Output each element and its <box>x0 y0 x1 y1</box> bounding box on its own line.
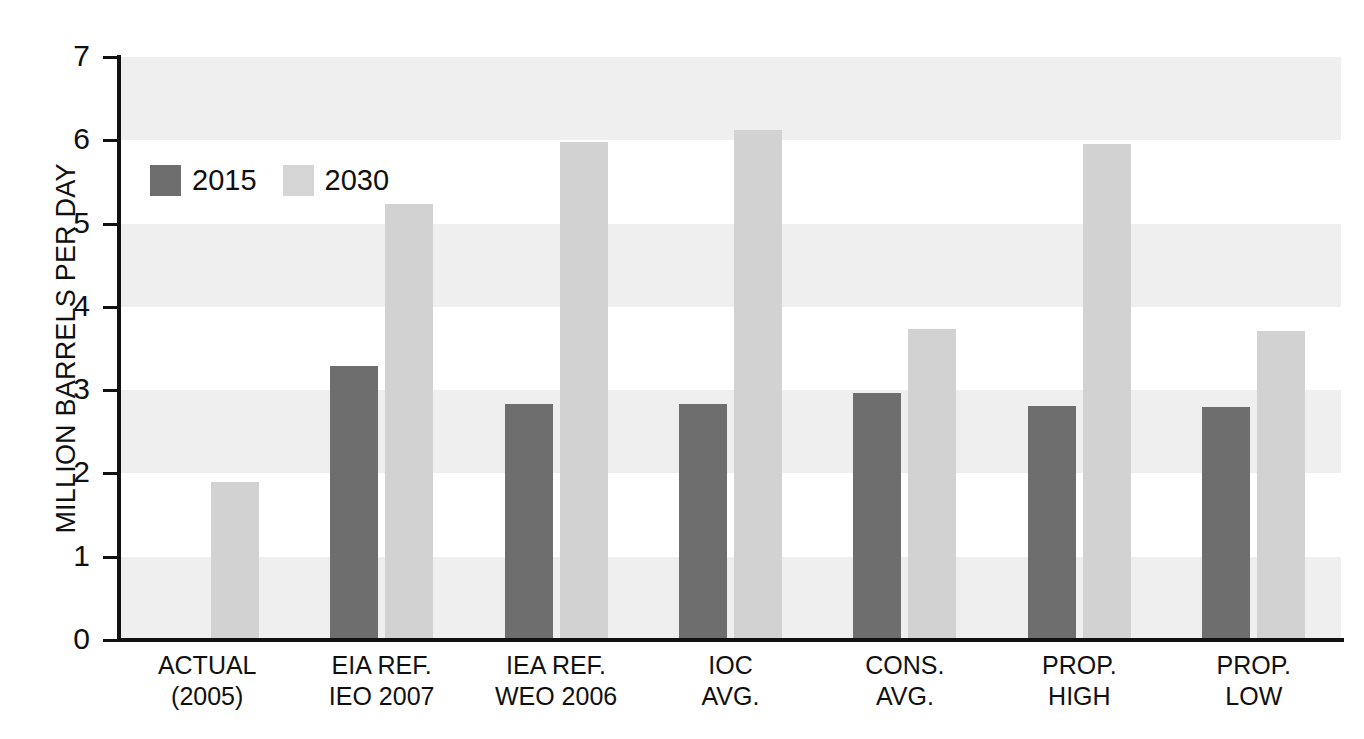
bar-2030-prop <box>1083 144 1131 640</box>
x-label-eiaref-1: EIA REF.IEO 2007 <box>294 650 468 712</box>
x-label-line2: LOW <box>1167 681 1341 712</box>
bar-2030-cons <box>908 329 956 640</box>
legend-swatch-2015 <box>150 165 181 196</box>
x-axis-category-labels: ACTUAL(2005)EIA REF.IEO 2007IEA REF.WEO … <box>120 650 1341 722</box>
bar-2030-eiaref <box>385 204 433 640</box>
bar-2030-prop <box>1257 331 1305 640</box>
bar-2015-prop <box>1202 407 1250 640</box>
background-band <box>120 224 1341 307</box>
legend-item-2030: 2030 <box>283 165 390 196</box>
x-label-line2: AVG. <box>643 681 817 712</box>
x-label-line1: PROP. <box>1216 651 1291 679</box>
plot-area <box>120 57 1341 640</box>
x-label-line1: ACTUAL <box>158 651 257 679</box>
bar-2015-eiaref <box>330 366 378 640</box>
y-tick-label-0: 0 <box>56 624 90 654</box>
bar-chart: MILLION BARRELS PER DAY 01234567 2015203… <box>0 0 1364 739</box>
x-label-line2: AVG. <box>818 681 992 712</box>
legend: 20152030 <box>150 165 389 196</box>
x-label-line1: IOC <box>708 651 752 679</box>
x-label-line1: EIA REF. <box>332 651 432 679</box>
x-label-line2: (2005) <box>120 681 294 712</box>
x-label-iearef-2: IEA REF.WEO 2006 <box>469 650 643 712</box>
y-axis-tick-labels: 01234567 <box>56 0 90 739</box>
x-label-line2: WEO 2006 <box>469 681 643 712</box>
x-label-prop-5: PROP.HIGH <box>992 650 1166 712</box>
x-label-cons-4: CONS.AVG. <box>818 650 992 712</box>
legend-swatch-2030 <box>283 165 314 196</box>
bar-2030-iearef <box>560 142 608 640</box>
x-label-line2: IEO 2007 <box>294 681 468 712</box>
y-tick-label-2: 2 <box>56 457 90 487</box>
x-label-line1: PROP. <box>1042 651 1117 679</box>
x-label-line1: IEA REF. <box>506 651 606 679</box>
bar-2015-prop <box>1028 406 1076 640</box>
bar-2030-ioc <box>734 130 782 640</box>
y-tick-label-4: 4 <box>56 291 90 321</box>
x-axis-line <box>117 638 1344 642</box>
y-tick-label-1: 1 <box>56 541 90 571</box>
x-label-actual-0: ACTUAL(2005) <box>120 650 294 712</box>
legend-item-2015: 2015 <box>150 165 257 196</box>
bar-2015-cons <box>853 393 901 640</box>
y-tick-label-6: 6 <box>56 124 90 154</box>
bar-2030-actual <box>211 482 259 640</box>
x-label-prop-6: PROP.LOW <box>1167 650 1341 712</box>
x-label-line2: HIGH <box>992 681 1166 712</box>
background-band <box>120 57 1341 140</box>
background-band <box>120 557 1341 640</box>
x-label-ioc-3: IOCAVG. <box>643 650 817 712</box>
background-band <box>120 390 1341 473</box>
y-tick-label-5: 5 <box>56 208 90 238</box>
y-tick-label-3: 3 <box>56 374 90 404</box>
x-label-line1: CONS. <box>865 651 944 679</box>
bar-2015-iearef <box>505 404 553 640</box>
y-axis-line <box>117 55 121 642</box>
legend-label-2030: 2030 <box>325 166 390 195</box>
y-tick-label-7: 7 <box>56 41 90 71</box>
bar-2015-ioc <box>679 404 727 640</box>
legend-label-2015: 2015 <box>192 166 257 195</box>
